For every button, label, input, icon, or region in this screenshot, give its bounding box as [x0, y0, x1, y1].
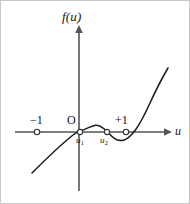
marker-minus-one	[34, 129, 39, 134]
figure-container: f(u) u O −1 +1 u1 u2	[0, 0, 190, 204]
root-label-u1: u1	[76, 136, 84, 145]
marker-u1	[77, 129, 82, 134]
function-curve	[32, 68, 168, 173]
x-axis-arrowhead	[164, 128, 172, 136]
marker-plus-one	[123, 129, 128, 134]
function-plot-canvas	[1, 1, 190, 204]
marker-u2	[104, 129, 109, 134]
root-label-u1-base: u	[76, 135, 81, 145]
y-axis	[75, 25, 83, 191]
tick-label-minus-one: −1	[30, 114, 43, 126]
root-label-u2: u2	[100, 136, 108, 145]
root-label-u1-subscript: 1	[81, 139, 84, 146]
y-axis-label: f(u)	[62, 10, 82, 23]
y-axis-arrowhead	[75, 25, 83, 33]
tick-label-plus-one: +1	[115, 114, 128, 126]
x-axis-label: u	[175, 125, 181, 137]
origin-label: O	[67, 114, 76, 126]
root-label-u2-base: u	[100, 135, 105, 145]
root-label-u2-subscript: 2	[105, 139, 108, 146]
